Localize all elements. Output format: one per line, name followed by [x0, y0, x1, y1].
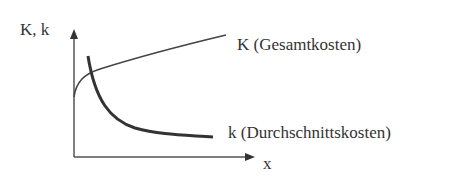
cost-diagram [0, 0, 455, 181]
curve-k-label: k (Durchschnittskosten) [228, 124, 391, 141]
y-axis-label: K, k [20, 21, 49, 38]
x-axis-arrow-icon [245, 153, 255, 161]
curve-K-label: K (Gesamtkosten) [237, 36, 361, 53]
curve-k-durchschnittskosten [88, 56, 213, 137]
y-axis-arrow-icon [70, 29, 78, 39]
x-axis-label: x [263, 155, 272, 172]
